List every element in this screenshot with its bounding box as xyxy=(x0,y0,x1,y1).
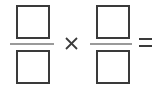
left-denominator-input-box[interactable] xyxy=(16,50,50,84)
right-fraction-bar xyxy=(90,43,132,45)
right-numerator-input-box[interactable] xyxy=(96,5,130,39)
right-denominator-input-box[interactable] xyxy=(96,50,130,84)
equals-bottom-line xyxy=(139,45,152,47)
left-fraction-bar xyxy=(10,43,54,45)
equals-top-line xyxy=(139,38,152,40)
left-numerator-input-box[interactable] xyxy=(16,5,50,39)
multiply-sign-icon xyxy=(65,37,78,50)
